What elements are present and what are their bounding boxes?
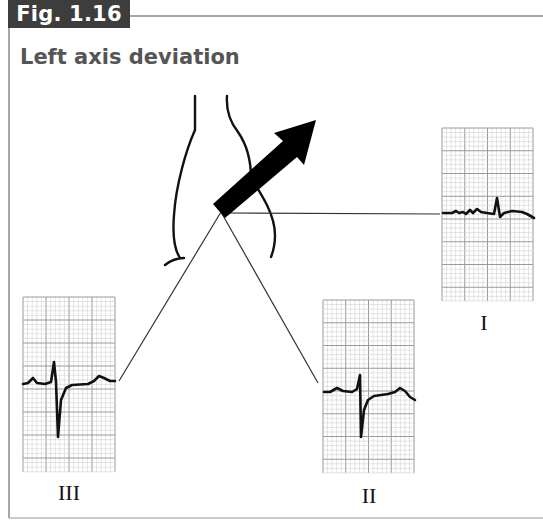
axis-arrow-icon (213, 120, 316, 218)
torso-left-outline (165, 96, 195, 265)
connector-lead-II (221, 212, 318, 383)
axis-diagram: I III II (0, 0, 543, 523)
ecg-trace-lead-II (324, 375, 415, 437)
lead-connectors (119, 212, 440, 383)
lead-label-III: III (58, 480, 80, 505)
lead-label-II: II (362, 483, 377, 508)
lead-label-I: I (480, 310, 487, 335)
connector-lead-III (119, 212, 221, 381)
ecg-strip-lead-III (23, 297, 115, 472)
ecg-strip-lead-I (442, 128, 533, 301)
connector-lead-I (222, 213, 440, 214)
ecg-strip-lead-II (323, 300, 414, 473)
